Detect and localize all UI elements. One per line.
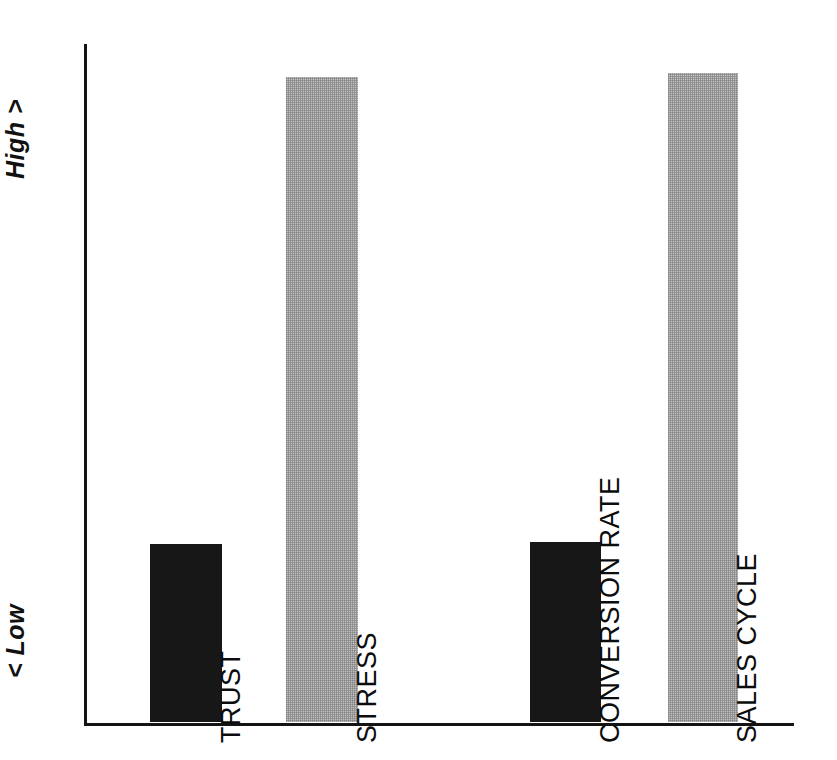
bar-conversion-rate <box>530 542 601 722</box>
bar-label-sales-cycle: SALES CYCLE <box>732 553 763 743</box>
bar-label-stress: STRESS <box>352 632 383 743</box>
bar-stress <box>286 77 358 722</box>
x-axis-line <box>84 723 794 726</box>
bar-label-conversion-rate: CONVERSION RATE <box>595 476 626 743</box>
y-axis-high-label: High > <box>1 99 30 179</box>
bar-chart: High > < Low TRUST STRESS CONVERSION RAT… <box>0 0 837 760</box>
y-axis-line <box>84 44 87 726</box>
bar-trust <box>150 544 222 722</box>
bar-label-trust: TRUST <box>216 651 247 744</box>
bar-sales-cycle <box>668 73 738 722</box>
y-axis-low-label: < Low <box>1 604 30 678</box>
